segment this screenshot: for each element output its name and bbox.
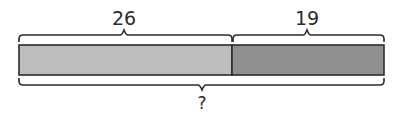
segment-1-bar <box>19 45 232 75</box>
segment-1-label: 26 <box>112 9 136 28</box>
segment-2-label: 19 <box>295 9 319 28</box>
segment-2-bar <box>232 45 384 75</box>
top-brace-segment-2 <box>233 30 384 42</box>
total-unknown-label: ? <box>197 95 206 112</box>
top-brace-segment-1 <box>19 30 232 42</box>
bottom-brace-total <box>19 78 384 90</box>
